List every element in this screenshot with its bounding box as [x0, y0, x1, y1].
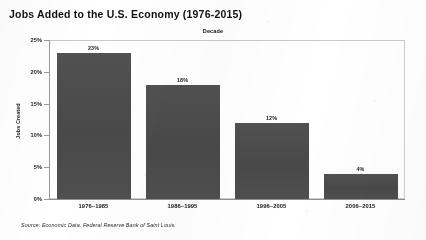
- y-axis-tick-label: 15%: [0, 101, 42, 107]
- bar[interactable]: [57, 53, 131, 199]
- x-axis-category-label: 1996–2005: [227, 203, 316, 209]
- x-axis-category-label: 1976–1985: [49, 203, 138, 209]
- x-axis-category-label: 1986–1995: [138, 203, 227, 209]
- page-title: Jobs Added to the U.S. Economy (1976-201…: [9, 8, 242, 20]
- bar[interactable]: [235, 123, 309, 199]
- source-note: Source: Economic Data. Federal Reserve B…: [21, 222, 176, 228]
- bar-group[interactable]: 18%: [146, 40, 220, 199]
- y-axis-tick-label: 0%: [0, 196, 42, 202]
- bar[interactable]: [324, 174, 398, 199]
- bar-group[interactable]: 4%: [324, 40, 398, 199]
- bar-group[interactable]: 23%: [57, 40, 131, 199]
- x-axis-category-label: 2006–2015: [316, 203, 405, 209]
- bar-value-label: 18%: [146, 77, 220, 83]
- x-axis-line: [49, 199, 405, 200]
- bar-value-label: 23%: [57, 45, 131, 51]
- bars-container: 23%18%12%4%: [49, 40, 405, 199]
- y-axis-tick-label: 25%: [0, 37, 42, 43]
- bar-group[interactable]: 12%: [235, 40, 309, 199]
- bar-value-label: 12%: [235, 115, 309, 121]
- y-axis-tick-label: 20%: [0, 69, 42, 75]
- y-axis-tick-labels: 0%5%10%15%20%25%: [0, 0, 42, 240]
- x-axis-title: Decade: [0, 28, 426, 34]
- y-axis-title: Jobs Created: [15, 91, 21, 151]
- y-axis-tick-label: 10%: [0, 132, 42, 138]
- bar[interactable]: [146, 85, 220, 199]
- y-axis-tick-label: 5%: [0, 164, 42, 170]
- bar-value-label: 4%: [324, 166, 398, 172]
